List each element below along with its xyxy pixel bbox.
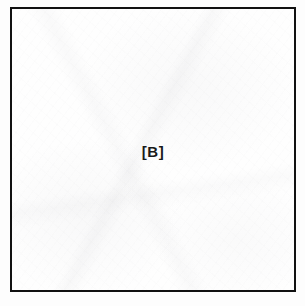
panel-label: [B] bbox=[12, 144, 294, 159]
scanned-figure-page: [B] bbox=[0, 0, 305, 306]
figure-panel: [B] bbox=[10, 7, 296, 292]
